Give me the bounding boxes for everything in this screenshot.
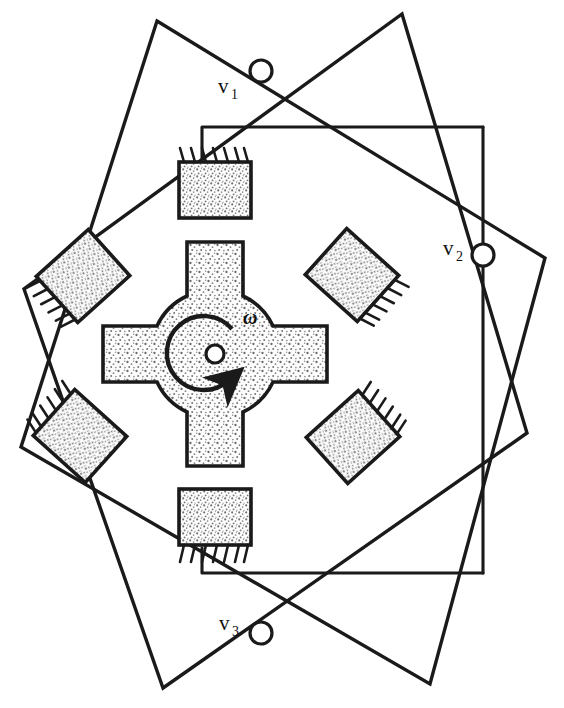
terminal-node-v1[interactable] (250, 60, 272, 82)
stator-coil-upper-left (25, 230, 130, 333)
coil-top-windings (180, 148, 248, 162)
v3-label-text: v (219, 611, 230, 635)
terminal-label-v2: v 2 (443, 236, 463, 264)
stator-coil-top (179, 148, 251, 218)
coil-lower-left-core (33, 390, 127, 483)
angular-velocity-label: ω (243, 306, 257, 328)
terminal-node-v2[interactable] (472, 244, 494, 266)
stator-coil-lower-right (306, 381, 411, 484)
coil-top-core (179, 162, 251, 218)
figure-canvas: ω (0, 0, 564, 708)
v1-label-subscript: 1 (231, 87, 238, 102)
four-pole-cross-rotor: ω (103, 242, 327, 466)
rotor-axle (206, 345, 224, 363)
stator-coil-upper-right (305, 229, 410, 332)
v1-label-text: v (218, 74, 229, 98)
terminal-label-v3: v 3 (219, 611, 239, 639)
v2-label-text: v (443, 236, 454, 260)
coil-bottom-core (179, 489, 251, 545)
coil-upper-right-core (305, 229, 399, 322)
coil-upper-left-core (36, 230, 130, 323)
v2-label-subscript: 2 (456, 249, 463, 264)
terminal-label-v1: v 1 (218, 74, 238, 102)
stator-coil-bottom (179, 489, 251, 562)
coil-lower-right-core (306, 391, 400, 484)
schematic-diagram: ω (0, 0, 564, 708)
coil-bottom-windings (180, 545, 248, 562)
terminal-node-v3[interactable] (250, 622, 272, 644)
v3-label-subscript: 3 (232, 624, 239, 639)
